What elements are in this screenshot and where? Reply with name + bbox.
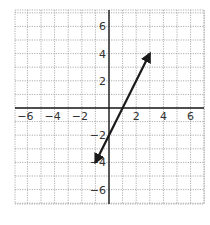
y-tick-label: −2	[90, 129, 106, 142]
x-tick-label: −6	[17, 110, 33, 123]
axes	[15, 10, 204, 204]
x-tick-label: 6	[187, 110, 194, 123]
y-tick-label: 4	[99, 48, 106, 61]
y-tick-label: 2	[99, 75, 106, 88]
x-tick-labels: −6−4−2246	[17, 110, 194, 123]
x-tick-label: 2	[133, 110, 140, 123]
x-tick-label: 4	[160, 110, 167, 123]
y-tick-label: −6	[90, 184, 106, 197]
x-tick-label: −2	[72, 110, 88, 123]
y-tick-label: 6	[99, 20, 106, 33]
coordinate-plane: −6−4−2246 −6−4−2246	[0, 0, 210, 225]
x-tick-label: −4	[44, 110, 60, 123]
